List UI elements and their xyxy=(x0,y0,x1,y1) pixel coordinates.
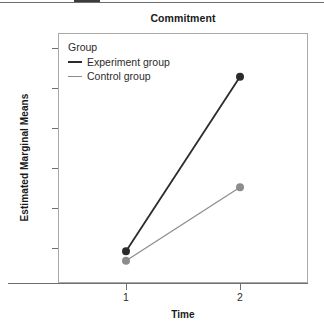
chart-title: Commitment xyxy=(58,12,308,24)
x-axis-title: Time xyxy=(58,309,308,320)
y-tick-mark xyxy=(52,208,58,209)
legend-label-control: Control group xyxy=(87,69,151,83)
y-tick-mark xyxy=(52,48,58,49)
x-axis-line xyxy=(8,283,308,284)
legend-item-experiment-group: Experiment group xyxy=(68,55,198,69)
legend: Group Experiment group Control group xyxy=(68,40,198,83)
y-axis-title: Estimated Marginal Means xyxy=(19,43,30,273)
page-rule-stub-artifact xyxy=(74,0,100,2)
x-tick-label: 2 xyxy=(220,291,260,303)
legend-line-swatch-experiment xyxy=(68,61,82,63)
y-tick-mark xyxy=(52,168,58,169)
x-tick-label: 1 xyxy=(106,291,146,303)
legend-item-control-group: Control group xyxy=(68,69,198,83)
x-tick-mark xyxy=(126,284,127,290)
legend-line-swatch-control xyxy=(68,76,82,77)
y-tick-mark xyxy=(52,88,58,89)
legend-label-experiment: Experiment group xyxy=(87,55,170,69)
legend-title: Group xyxy=(68,40,198,54)
x-tick-mark xyxy=(240,284,241,290)
page-rule-artifact xyxy=(0,2,324,3)
y-tick-mark xyxy=(52,248,58,249)
y-tick-mark xyxy=(52,128,58,129)
